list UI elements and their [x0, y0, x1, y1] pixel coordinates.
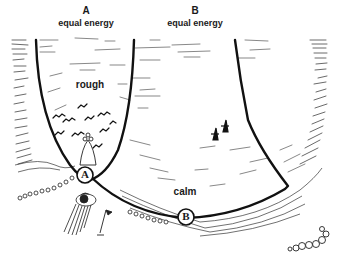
rough-waves	[53, 104, 116, 148]
boats	[211, 120, 229, 140]
water-hatching-right	[300, 40, 327, 164]
channel-b-letter: B	[183, 5, 207, 16]
marker-a-letter: A	[79, 168, 91, 180]
water-hatching-left	[12, 40, 32, 164]
channel-b-subtitle: equal energy	[157, 18, 233, 28]
flag	[97, 210, 112, 235]
island	[64, 193, 96, 235]
marker-b-letter: B	[180, 210, 192, 222]
region-label-calm: calm	[165, 186, 205, 197]
mound	[80, 133, 96, 165]
rocks-cluster	[288, 227, 329, 252]
rock-chain-left	[18, 176, 74, 200]
shoreline	[15, 162, 322, 237]
channel-a-subtitle: equal energy	[48, 18, 124, 28]
illustration-canvas	[0, 0, 345, 262]
channel-a-letter: A	[74, 5, 98, 16]
region-label-rough: rough	[70, 79, 110, 90]
